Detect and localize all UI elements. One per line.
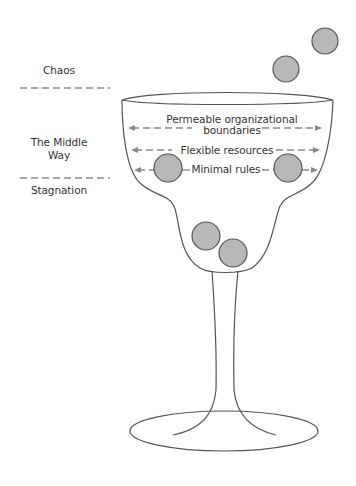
label-boundaries-line2: boundaries [182,124,282,136]
glass-rim [122,93,333,105]
ball-flying-mid [273,56,299,82]
ball-bottom-right [219,239,247,267]
label-minimal-rules: Minimal rules [186,163,266,175]
label-chaos: Chaos [4,64,114,76]
glass-stem-right [234,271,276,435]
glass-base [130,411,318,451]
ball-flying-top [312,28,338,54]
ball-rules-left [154,154,182,182]
ball-bottom-left [192,222,220,250]
ball-rules-right [274,154,302,182]
glass-stem-left [173,271,216,435]
label-middle-way-line1: The Middle [4,136,114,148]
label-stagnation: Stagnation [4,184,114,196]
label-middle-way-line2: Way [4,149,114,161]
label-flexible-resources: Flexible resources [172,144,282,156]
